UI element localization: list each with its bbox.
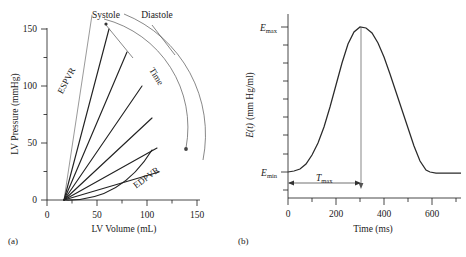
panel-a-xtick-label: 50 (92, 210, 102, 220)
tmax-arrowhead-left (288, 181, 294, 186)
panel-a-ytick-label: 0 (32, 195, 37, 205)
diastole-leader-line (152, 25, 175, 55)
panel-a-ytick-label: 50 (28, 138, 38, 148)
panel-a-xtick-label: 150 (190, 210, 205, 220)
panel-b-xtick-label: 400 (377, 209, 392, 219)
peak-vertical-arrowhead (359, 183, 364, 189)
panel-b-x-axis-title: Time (ms) (353, 224, 393, 235)
panel-b-xtick-label: 0 (286, 209, 291, 219)
panel-b-ytick-label-emax: Emax (259, 23, 278, 34)
figure-container: 0 50 100 150 0 50 100 150 LV Volume (mL)… (0, 0, 466, 257)
panel-b-caption: (b) (238, 236, 249, 246)
diastole-arc (124, 14, 206, 160)
time-arc-arrowhead (184, 147, 188, 151)
panel-a-xtick-label: 0 (45, 210, 50, 220)
panel-b-y-axis-title: E(t)(mm Hg/ml) (245, 72, 256, 139)
panel-b-plot: 0 200 400 600 Emax Emin Time (ms) E(t)(m… (233, 0, 466, 257)
panel-a-xtick-label: 100 (140, 210, 155, 220)
panel-a: 0 50 100 150 0 50 100 150 LV Volume (mL)… (0, 0, 233, 257)
panel-b-xtick-label: 200 (329, 209, 344, 219)
edpvr-label: EDPVR (131, 165, 161, 190)
panel-a-y-axis-title: LV Pressure (mmHg) (10, 73, 21, 154)
panel-a-x-axis-title: LV Volume (mL) (91, 224, 156, 235)
panel-b-xtick-label: 600 (425, 209, 440, 219)
panel-a-caption: (a) (8, 236, 18, 246)
elastance-curve (288, 27, 461, 173)
tmax-label: Tmax (316, 173, 333, 184)
diastole-label: Diastole (141, 10, 173, 20)
systole-marker (104, 22, 107, 25)
systole-label: Systole (92, 10, 120, 20)
pv-relation-line (64, 86, 142, 200)
espvr-label: ESPVR (55, 66, 77, 95)
time-label: Time (147, 66, 165, 87)
panel-b-ytick-label-emin: Emin (260, 168, 278, 179)
systole-leader-line (106, 25, 133, 58)
panel-a-ytick-label: 150 (23, 24, 38, 34)
panel-a-plot: 0 50 100 150 0 50 100 150 LV Volume (mL)… (0, 0, 233, 257)
panel-b: 0 200 400 600 Emax Emin Time (ms) E(t)(m… (233, 0, 466, 257)
panel-a-ytick-label: 100 (23, 81, 38, 91)
